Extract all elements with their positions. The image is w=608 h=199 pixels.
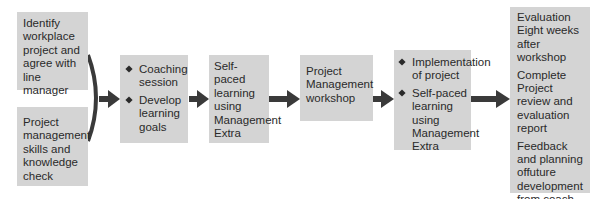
arrow-icon bbox=[99, 90, 120, 108]
box-skills-check: Project management skills and knowledge … bbox=[17, 107, 88, 186]
arrow-icon bbox=[373, 90, 394, 108]
diamond-bullet-icon bbox=[125, 96, 132, 103]
box-text: Project Management workshop bbox=[306, 65, 373, 104]
arrow-icon bbox=[189, 90, 209, 108]
box-workshop: Project Management workshop bbox=[300, 55, 373, 121]
box-line: Identify bbox=[23, 17, 84, 30]
box-line: management bbox=[23, 129, 84, 142]
bullet-item: Implementation of project bbox=[398, 56, 469, 83]
box-line: knowledge bbox=[23, 156, 84, 169]
bullet-item: Coaching session bbox=[125, 63, 184, 90]
box-line: line manager bbox=[23, 71, 84, 98]
merge-bracket bbox=[88, 55, 96, 141]
bullet-item: Develop learning goals bbox=[125, 94, 184, 134]
box-line: agree with bbox=[23, 57, 84, 70]
evaluation-feedback: Feedback and planning offuture developme… bbox=[517, 140, 588, 199]
diamond-bullet-icon bbox=[398, 89, 405, 96]
box-line: project and bbox=[23, 44, 84, 57]
arrow-icon bbox=[471, 90, 510, 108]
box-implementation: Implementation of project Self-paced lea… bbox=[394, 50, 471, 150]
bullet-item: Self-paced learning using Management Ext… bbox=[398, 87, 469, 154]
box-line: skills and bbox=[23, 143, 84, 156]
diamond-bullet-icon bbox=[398, 58, 405, 65]
box-identify-project: Identify workplace project and agree wit… bbox=[17, 12, 88, 90]
diamond-bullet-icon bbox=[125, 65, 132, 72]
box-evaluation: Evaluation Eight weeks after workshop Co… bbox=[510, 7, 590, 193]
box-coaching: Coaching session Develop learning goals bbox=[120, 55, 188, 143]
evaluation-report: Complete Project review and evaluation r… bbox=[517, 69, 588, 136]
arrow-icon bbox=[269, 90, 300, 108]
box-line: Project bbox=[23, 116, 84, 129]
box-self-paced-learning: Self-paced learning using Management Ext… bbox=[209, 55, 269, 143]
evaluation-timing: Evaluation Eight weeks after workshop bbox=[517, 11, 588, 65]
box-line: check bbox=[23, 170, 84, 183]
box-line: workplace bbox=[23, 30, 84, 43]
